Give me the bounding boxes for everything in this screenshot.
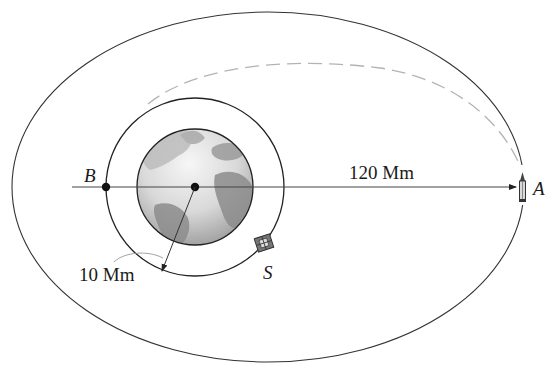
diagram-canvas xyxy=(0,0,557,374)
radius-label: 10 Mm xyxy=(79,265,134,284)
orbit-diagram: B A S 120 Mm 10 Mm xyxy=(0,0,557,374)
satellite-label: S xyxy=(263,263,273,282)
point-b-label: B xyxy=(84,166,96,185)
distance-a-label: 120 Mm xyxy=(349,163,414,182)
point-a-label: A xyxy=(533,179,545,198)
dimension-leader xyxy=(114,253,163,262)
satellite-icon xyxy=(254,234,274,252)
point-b-dot xyxy=(102,183,110,191)
